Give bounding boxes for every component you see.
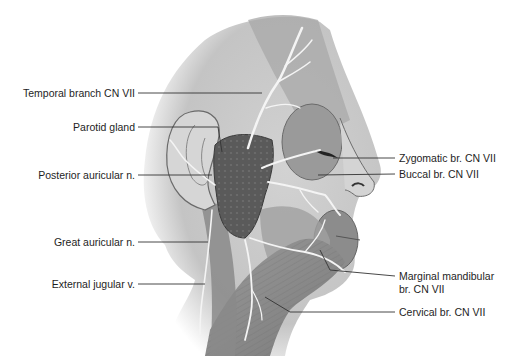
anatomy-figure: Temporal branch CN VII Parotid gland Pos… (0, 0, 518, 356)
label-posterior-auricular: Posterior auricular n. (38, 169, 135, 181)
label-external-jugular: External jugular v. (52, 278, 135, 290)
label-marginal-mandibular-line1: Marginal mandibular (399, 270, 494, 282)
label-temporal-branch: Temporal branch CN VII (23, 87, 135, 99)
label-marginal-mandibular-line2: br. CN VII (399, 283, 445, 295)
label-cervical-branch: Cervical br. CN VII (399, 306, 485, 318)
label-great-auricular: Great auricular n. (54, 236, 135, 248)
label-parotid-gland: Parotid gland (73, 121, 135, 133)
orbicularis-oculi (282, 104, 342, 180)
label-buccal-branch: Buccal br. CN VII (399, 168, 479, 180)
label-zygomatic-branch: Zygomatic br. CN VII (399, 152, 496, 164)
